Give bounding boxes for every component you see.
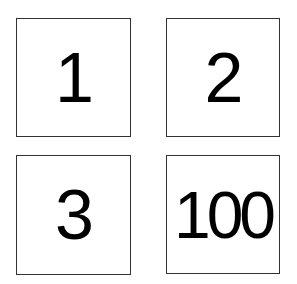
- number-card-100[interactable]: 100: [166, 155, 280, 274]
- number-card-1[interactable]: 1: [16, 18, 131, 137]
- card-number: 2: [205, 43, 242, 113]
- card-number: 100: [174, 182, 272, 248]
- card-number: 3: [55, 180, 92, 250]
- card-number: 1: [55, 43, 92, 113]
- number-card-2[interactable]: 2: [166, 18, 280, 137]
- number-card-3[interactable]: 3: [16, 155, 131, 275]
